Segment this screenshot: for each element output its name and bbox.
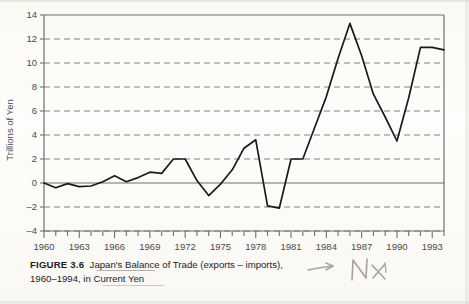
line-chart-svg: 14121086420–2–4 196019631966196919721975… bbox=[0, 0, 469, 252]
svg-text:8: 8 bbox=[32, 81, 37, 92]
svg-text:1960: 1960 bbox=[33, 241, 54, 252]
svg-text:1990: 1990 bbox=[386, 241, 407, 252]
svg-text:4: 4 bbox=[32, 129, 37, 140]
svg-text:6: 6 bbox=[32, 105, 37, 116]
caption-text-1: Japan's Balance of Trade (exports – impo… bbox=[90, 259, 283, 270]
svg-text:10: 10 bbox=[26, 57, 37, 68]
svg-text:–2: –2 bbox=[26, 201, 37, 212]
y-axis-ticks-group: 14121086420–2–4 bbox=[26, 9, 44, 236]
chart-plot-region: 14121086420–2–4 196019631966196919721975… bbox=[0, 0, 469, 252]
svg-text:1981: 1981 bbox=[280, 241, 301, 252]
svg-text:1963: 1963 bbox=[69, 241, 90, 252]
svg-text:1978: 1978 bbox=[245, 241, 266, 252]
svg-text:1993: 1993 bbox=[422, 241, 443, 252]
figure-number: FIGURE 3.6 bbox=[30, 259, 84, 270]
axis-frame-group bbox=[44, 15, 444, 231]
pencil-underline-2 bbox=[103, 285, 164, 286]
caption-line-1: FIGURE 3.6 Japan's Balance of Trade (exp… bbox=[30, 258, 360, 272]
svg-text:14: 14 bbox=[26, 9, 37, 20]
caption-line-2: 1960–1994, in Current Yen bbox=[30, 272, 360, 286]
svg-text:12: 12 bbox=[26, 33, 37, 44]
figure-caption: FIGURE 3.6 Japan's Balance of Trade (exp… bbox=[30, 258, 360, 286]
svg-text:1987: 1987 bbox=[351, 241, 372, 252]
svg-text:1972: 1972 bbox=[175, 241, 196, 252]
svg-text:0: 0 bbox=[32, 177, 37, 188]
svg-text:–4: –4 bbox=[26, 225, 37, 236]
svg-text:1984: 1984 bbox=[316, 241, 337, 252]
gridlines-group bbox=[44, 39, 444, 231]
svg-text:1975: 1975 bbox=[210, 241, 231, 252]
svg-text:1966: 1966 bbox=[104, 241, 125, 252]
x-axis-ticks-group: 1960196319661969197219751978198119841987… bbox=[33, 231, 444, 252]
y-axis-title: Trillions of Yen bbox=[4, 99, 15, 160]
svg-text:1969: 1969 bbox=[139, 241, 160, 252]
data-series-group bbox=[44, 23, 444, 208]
pencil-underline-1 bbox=[97, 270, 155, 271]
svg-text:2: 2 bbox=[32, 153, 37, 164]
